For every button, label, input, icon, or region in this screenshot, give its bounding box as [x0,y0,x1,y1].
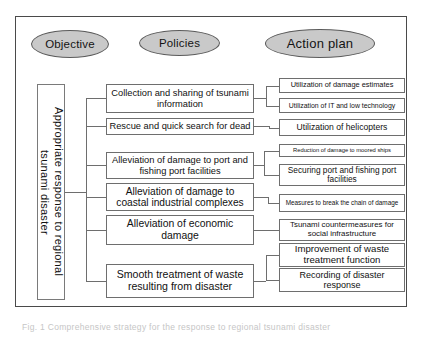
policy-box-1: Collection and sharing of tsunami inform… [106,84,254,113]
action-label-5: Securing port and fishing port facilitie… [282,166,402,185]
header-objective: Objective [31,30,109,58]
action-box-1: Utilization of damage estimates [279,78,405,93]
policy-label-4: Alleviation of damage to coastal industr… [109,186,251,209]
action-box-2: Utilization of IT and low technology [279,98,405,113]
policy-label-6: Smooth treatment of waste resulting from… [109,269,251,293]
policy-label-1: Collection and sharing of tsunami inform… [109,88,251,109]
action-label-9: Recording of disaster response [282,270,402,290]
action-box-8: Improvement of waste treatment function [279,243,405,267]
policy-box-5: Alleviation of economic damage [106,215,254,245]
action-label-3: Utilization of helicopters [297,123,388,133]
action-label-4: Reduction of damage to moored ships [293,147,391,153]
action-box-9: Recording of disaster response [279,268,405,292]
header-policies: Policies [139,30,220,56]
action-box-6: Measures to break the chain of damage [279,194,405,212]
objective-box: Appropriate response to regional tsunami… [37,84,65,300]
policy-label-3: Alleviation of damage to port and fishin… [109,155,251,176]
action-box-4: Reduction of damage to moored ships [279,144,405,157]
policy-box-6: Smooth treatment of waste resulting from… [106,264,254,298]
figure-caption: Fig. 1 Comprehensive strategy for the re… [22,322,412,332]
policy-label-2: Rescue and quick search for dead [109,121,250,131]
action-label-1: Utilization of damage estimates [291,81,394,89]
action-label-8: Improvement of waste treatment function [282,244,402,265]
action-box-7: Tsunami countermeasures for social infra… [279,219,405,241]
action-label-6: Measures to break the chain of damage [286,199,399,206]
action-label-2: Utilization of IT and low technology [289,102,395,110]
action-box-3: Utilization of helicopters [279,119,405,136]
policy-box-3: Alleviation of damage to port and fishin… [106,152,254,179]
action-box-5: Securing port and fishing port facilitie… [279,164,405,186]
objective-label: Appropriate response to regional tsunami… [37,89,65,295]
policy-box-2: Rescue and quick search for dead [106,118,254,135]
action-label-7: Tsunami countermeasures for social infra… [282,221,402,239]
policy-box-4: Alleviation of damage to coastal industr… [106,183,254,211]
figure-canvas: Objective Policies Action plan Appropria… [0,0,422,339]
header-action-plan: Action plan [265,29,375,58]
policy-label-5: Alleviation of economic damage [109,218,251,241]
